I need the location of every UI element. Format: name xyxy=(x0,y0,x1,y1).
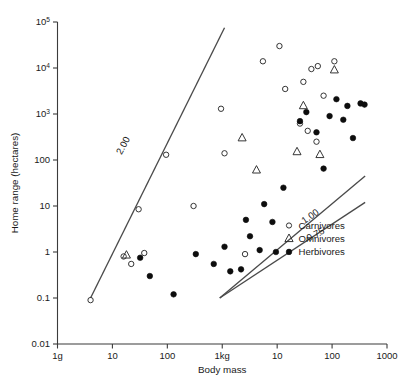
data-point-carnivore xyxy=(136,207,141,212)
data-points xyxy=(88,43,367,302)
chart-legend: CarnivoresOmnivoresHerbivores xyxy=(285,220,345,257)
data-point-carnivore xyxy=(301,79,306,84)
series-herbivores xyxy=(137,96,367,297)
data-point-herbivore xyxy=(193,251,199,257)
legend-label: Carnivores xyxy=(299,220,346,231)
data-point-carnivore xyxy=(315,63,320,68)
data-point-herbivore xyxy=(273,249,279,255)
x-tick-label: 1kg xyxy=(215,350,230,361)
y-axis-title: Home range (hectares) xyxy=(9,133,20,234)
reference-lines xyxy=(91,28,366,298)
data-point-herbivore xyxy=(257,247,263,253)
data-point-carnivore xyxy=(242,251,247,256)
reference-line-2.00 xyxy=(91,28,225,298)
data-point-carnivore xyxy=(163,152,168,157)
y-tick-label: 103 xyxy=(36,108,51,120)
data-point-herbivore xyxy=(314,130,320,136)
x-tick-label: 100 xyxy=(324,350,340,361)
data-point-carnivore xyxy=(277,43,282,48)
legend-marker-filled-circle-icon xyxy=(286,249,292,255)
data-point-omnivore xyxy=(252,166,260,173)
reference-line-labels: 2.001.000.75 xyxy=(114,135,327,244)
data-point-omnivore xyxy=(293,147,301,154)
data-point-herbivore xyxy=(297,118,303,124)
data-point-carnivore xyxy=(218,106,223,111)
data-point-carnivore xyxy=(260,59,265,64)
x-tick-label: 10 xyxy=(272,350,283,361)
data-point-herbivore xyxy=(222,244,228,250)
data-point-carnivore xyxy=(142,250,147,255)
data-point-herbivore xyxy=(334,96,340,102)
x-tick-label: 100 xyxy=(159,350,175,361)
data-point-herbivore xyxy=(327,113,333,119)
x-tick-label: 1000 xyxy=(376,350,397,361)
data-point-herbivore xyxy=(350,135,356,141)
data-point-herbivore xyxy=(321,166,327,172)
data-point-carnivore xyxy=(314,139,319,144)
data-point-omnivore xyxy=(238,133,246,140)
chart-figure: 0.010.11101001031041051g101001kg10100100… xyxy=(0,0,406,389)
data-point-carnivore xyxy=(129,261,134,266)
data-point-herbivore xyxy=(171,292,177,298)
data-point-herbivore xyxy=(227,269,233,275)
data-point-herbivore xyxy=(340,117,346,123)
y-tick-label: 0.01 xyxy=(32,338,51,349)
data-point-herbivore xyxy=(270,219,276,225)
data-point-carnivore xyxy=(88,297,93,302)
legend-item-carnivores: Carnivores xyxy=(286,220,345,231)
y-tick-label: 105 xyxy=(36,16,51,28)
data-point-carnivore xyxy=(282,86,287,91)
data-point-carnivore xyxy=(222,151,227,156)
data-point-omnivore xyxy=(299,101,307,108)
y-tick-label: 0.1 xyxy=(37,292,50,303)
legend-label: Herbivores xyxy=(299,246,346,257)
data-point-herbivore xyxy=(211,261,217,267)
data-point-carnivore xyxy=(332,59,337,64)
legend-item-omnivores: Omnivores xyxy=(285,233,345,244)
data-point-carnivore xyxy=(191,203,196,208)
data-point-herbivore xyxy=(238,267,244,273)
x-tick-label: 1g xyxy=(52,350,63,361)
y-tick-label: 1 xyxy=(45,246,50,257)
data-point-carnivore xyxy=(305,128,310,133)
axis-tick-labels: 0.010.11101001031041051g101001kg10100100… xyxy=(32,16,398,361)
legend-item-herbivores: Herbivores xyxy=(286,246,345,257)
data-point-herbivore xyxy=(137,255,143,261)
x-axis-title: Body mass xyxy=(198,364,247,375)
x-tick-label: 10 xyxy=(107,350,118,361)
y-tick-label: 10 xyxy=(39,200,50,211)
legend-label: Omnivores xyxy=(299,233,346,244)
data-point-herbivore xyxy=(243,217,249,223)
data-point-herbivore xyxy=(281,185,287,191)
slope-label-2.00: 2.00 xyxy=(114,135,132,157)
data-point-omnivore xyxy=(330,66,338,73)
data-point-carnivore xyxy=(309,66,314,71)
data-point-herbivore xyxy=(261,201,267,207)
data-point-omnivore xyxy=(316,150,324,157)
data-point-herbivore xyxy=(147,273,153,279)
data-point-herbivore xyxy=(362,102,368,108)
legend-marker-open-circle-icon xyxy=(286,223,291,228)
y-tick-label: 104 xyxy=(36,62,51,74)
y-tick-label: 100 xyxy=(34,154,50,165)
data-point-herbivore xyxy=(345,103,351,109)
data-point-carnivore xyxy=(321,93,326,98)
scatter-plot: 0.010.11101001031041051g101001kg10100100… xyxy=(0,0,406,389)
data-point-herbivore xyxy=(304,109,310,115)
data-point-herbivore xyxy=(247,233,253,239)
